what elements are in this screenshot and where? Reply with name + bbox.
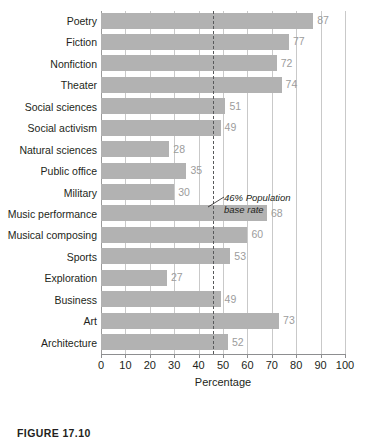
bar-value-label: 35 xyxy=(190,162,202,178)
bar-value-label: 87 xyxy=(317,12,329,28)
category-label: Fiction xyxy=(1,32,97,53)
bar xyxy=(101,334,228,350)
category-label: Poetry xyxy=(1,11,97,32)
bar-value-label: 73 xyxy=(283,312,295,328)
category-label: Exploration xyxy=(1,268,97,289)
bar xyxy=(101,55,277,71)
x-tick-10 xyxy=(125,354,126,358)
category-label: Art xyxy=(1,311,97,332)
x-axis-title: Percentage xyxy=(101,376,345,388)
bar-row: 51 xyxy=(101,97,345,118)
bar xyxy=(101,34,289,50)
x-tick-label-100: 100 xyxy=(325,359,365,371)
base-rate-annotation: 46% Population base rate xyxy=(224,192,334,215)
category-label: Nonfiction xyxy=(1,54,97,75)
x-tick-40 xyxy=(199,354,200,358)
category-label: Musical composing xyxy=(1,225,97,246)
bar-row: 87 xyxy=(101,11,345,32)
bar-row: 53 xyxy=(101,247,345,268)
x-tick-100 xyxy=(345,354,346,358)
base-rate-annotation-line2: base rate xyxy=(224,204,334,216)
bar xyxy=(101,270,167,286)
x-tick-20 xyxy=(150,354,151,358)
bar-value-label: 77 xyxy=(293,33,305,49)
bar-value-label: 60 xyxy=(251,226,263,242)
bar xyxy=(101,120,221,136)
x-tick-30 xyxy=(174,354,175,358)
x-tick-50 xyxy=(223,354,224,358)
bar xyxy=(101,248,230,264)
figure-container: PoetryFictionNonfictionTheaterSocial sci… xyxy=(0,0,371,440)
bar-value-label: 28 xyxy=(173,141,185,157)
category-label: Public office xyxy=(1,161,97,182)
bar-value-label: 72 xyxy=(281,55,293,71)
bar-value-label: 52 xyxy=(232,334,244,350)
bar-value-label: 49 xyxy=(225,119,237,135)
bar-row: 77 xyxy=(101,32,345,53)
x-tick-0 xyxy=(101,354,102,358)
category-label: Theater xyxy=(1,75,97,96)
bar-row: 49 xyxy=(101,118,345,139)
population-base-rate-line xyxy=(213,11,214,354)
category-label: Social activism xyxy=(1,118,97,139)
bar-row: 49 xyxy=(101,290,345,311)
bar-value-label: 74 xyxy=(286,76,298,92)
bar-row: 74 xyxy=(101,75,345,96)
plot-area: 87777274514928353068605327497352 xyxy=(101,11,345,354)
bar-row: 27 xyxy=(101,268,345,289)
bar-value-label: 30 xyxy=(178,184,190,200)
category-axis-labels: PoetryFictionNonfictionTheaterSocial sci… xyxy=(0,11,97,354)
bar xyxy=(101,13,313,29)
figure-caption: FIGURE 17.10 xyxy=(17,427,91,439)
gridline-100 xyxy=(345,11,346,354)
category-label: Sports xyxy=(1,247,97,268)
bar xyxy=(101,141,169,157)
base-rate-annotation-line1: 46% Population xyxy=(224,192,334,204)
bar-row: 52 xyxy=(101,333,345,354)
x-tick-80 xyxy=(296,354,297,358)
bar-value-label: 49 xyxy=(225,291,237,307)
bar-row: 28 xyxy=(101,140,345,161)
bar-row: 35 xyxy=(101,161,345,182)
bar xyxy=(101,227,247,243)
bar xyxy=(101,291,221,307)
bar-value-label: 53 xyxy=(234,248,246,264)
bar xyxy=(101,163,186,179)
x-tick-90 xyxy=(321,354,322,358)
bar xyxy=(101,98,225,114)
bar-row: 73 xyxy=(101,311,345,332)
category-label: Natural sciences xyxy=(1,140,97,161)
category-label: Architecture xyxy=(1,333,97,354)
category-label: Music performance xyxy=(1,204,97,225)
category-label: Business xyxy=(1,290,97,311)
x-tick-70 xyxy=(272,354,273,358)
bar xyxy=(101,184,174,200)
bar xyxy=(101,313,279,329)
x-tick-60 xyxy=(247,354,248,358)
bar-value-label: 51 xyxy=(229,98,241,114)
bar-value-label: 27 xyxy=(171,269,183,285)
category-label: Social sciences xyxy=(1,97,97,118)
category-label: Military xyxy=(1,183,97,204)
bar xyxy=(101,77,282,93)
bar-row: 60 xyxy=(101,225,345,246)
bar-row: 72 xyxy=(101,54,345,75)
